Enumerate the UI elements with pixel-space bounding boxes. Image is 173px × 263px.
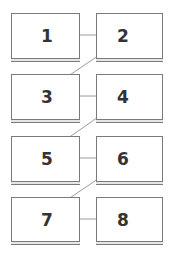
panel-number: 3 [41, 89, 53, 106]
panel-2: 2 [96, 13, 163, 62]
panel-3: 3 [11, 74, 80, 123]
panel-number: 2 [117, 28, 129, 45]
panel-number: 6 [117, 151, 129, 168]
panel-number: 8 [117, 212, 129, 229]
panel-5: 5 [11, 136, 80, 185]
panel-number: 7 [41, 212, 53, 229]
panel-number: 4 [117, 89, 129, 106]
panel-7: 7 [11, 197, 80, 245]
panel-number: 5 [41, 151, 53, 168]
panel-6: 6 [96, 136, 163, 185]
panel-1: 1 [11, 13, 80, 62]
panel-4: 4 [96, 74, 163, 123]
panel-number: 1 [41, 28, 53, 45]
panel-8: 8 [96, 197, 163, 245]
